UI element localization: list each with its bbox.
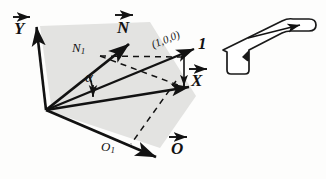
- label-one: 1: [198, 35, 207, 52]
- label-n1-letter: N: [72, 40, 81, 55]
- label-n-vector: N: [117, 19, 129, 36]
- vector-diagram-svg: [0, 0, 326, 179]
- label-y-vector: Y: [14, 20, 24, 37]
- label-o1-letter: O: [101, 139, 110, 154]
- label-o-vector: O: [171, 140, 183, 157]
- tool-inset: [223, 19, 316, 74]
- diagram-canvas: Y N N1 α (1,0,0) 1 X O O1: [0, 0, 326, 179]
- label-n1-subscript: 1: [81, 46, 86, 56]
- label-o1: O1: [101, 140, 115, 155]
- label-alpha: α: [85, 70, 93, 85]
- label-x-vector: X: [191, 72, 202, 89]
- label-n1: N1: [72, 41, 85, 56]
- label-o1-subscript: 1: [110, 145, 115, 155]
- tool-outline-path: [223, 19, 316, 74]
